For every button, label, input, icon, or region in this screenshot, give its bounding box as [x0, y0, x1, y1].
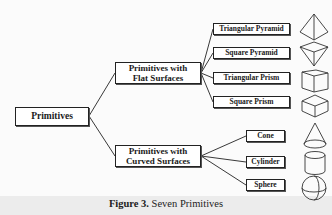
connector-curved-cone — [201, 136, 246, 156]
node-triangular-pyramid-label: Triangular Pyramid — [219, 25, 284, 34]
node-square-pyramid-label: Square Pyramid — [225, 49, 278, 58]
node-square-prism-label: Square Prism — [230, 98, 274, 107]
node-primitives-label: Primitives — [31, 111, 73, 122]
square-prism-icon — [299, 94, 331, 118]
node-flat-surfaces-line2: Flat Surfaces — [133, 73, 184, 83]
connector-root-flat — [89, 73, 115, 116]
node-triangular-pyramid: Triangular Pyramid — [213, 23, 290, 35]
node-curved-surfaces-line2: Curved Surfaces — [126, 156, 190, 166]
node-cone-label: Cone — [257, 132, 274, 141]
square-pyramid-icon — [298, 41, 330, 67]
triangular-prism-icon — [299, 69, 331, 93]
node-sphere-label: Sphere — [254, 181, 276, 190]
figure-caption: Figure 3. Seven Primitives — [0, 198, 332, 209]
cone-icon — [302, 122, 328, 150]
connector-curved-cylinder — [201, 156, 246, 162]
triangular-pyramid-icon — [298, 13, 330, 41]
node-flat-surfaces: Primitives with Flat Surfaces — [115, 62, 201, 84]
connector-root-curved — [89, 116, 115, 156]
node-cylinder: Cylinder — [246, 156, 285, 168]
node-sphere: Sphere — [246, 179, 285, 191]
node-curved-surfaces-line1: Primitives with — [129, 146, 188, 156]
node-curved-surfaces: Primitives with Curved Surfaces — [115, 145, 201, 167]
node-flat-surfaces-line1: Primitives with — [129, 63, 188, 73]
node-square-prism: Square Prism — [213, 96, 290, 108]
node-square-pyramid: Square Pyramid — [213, 47, 290, 59]
figure-label: Figure 3. — [109, 198, 149, 209]
node-triangular-prism: Triangular Prism — [213, 72, 290, 84]
connector-flat-square-pyramid — [201, 53, 213, 73]
connector-curved-sphere — [201, 156, 246, 185]
node-cylinder-label: Cylinder — [251, 158, 279, 167]
connector-flat-triangular-pyramid — [201, 29, 213, 73]
node-primitives: Primitives — [15, 107, 89, 126]
node-triangular-prism-label: Triangular Prism — [224, 74, 280, 83]
node-cone: Cone — [246, 130, 285, 142]
cylinder-icon — [302, 150, 328, 176]
figure-caption-text: Seven Primitives — [149, 198, 223, 209]
